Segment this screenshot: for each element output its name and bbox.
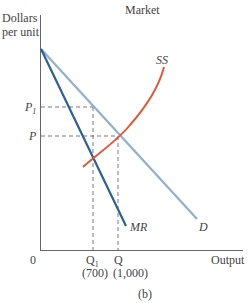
q-tick-label: Q (114, 253, 123, 267)
ss-curve (83, 67, 164, 167)
q-value: (1,000) (113, 266, 148, 280)
market-chart: Market Dollars per unit SS MR D P1 P 0 Q… (0, 0, 249, 303)
q1-value: (700) (82, 266, 108, 280)
p-tick-label: P (28, 129, 37, 143)
panel-label: (b) (138, 287, 152, 301)
svg-text:P1: P1 (24, 100, 36, 116)
x-axis-label: Output (211, 253, 245, 267)
p1-tick-label: P1 (24, 100, 36, 116)
mr-label: MR (129, 220, 148, 234)
demand-curve (41, 49, 197, 219)
y-axis-label-line1: Dollars (2, 11, 38, 25)
d-label: D (198, 220, 208, 234)
chart-title: Market (125, 3, 160, 17)
y-axis-label-line2: per unit (2, 25, 40, 39)
origin-label: 0 (30, 253, 36, 267)
mr-curve (41, 49, 126, 226)
ss-label: SS (156, 53, 168, 67)
